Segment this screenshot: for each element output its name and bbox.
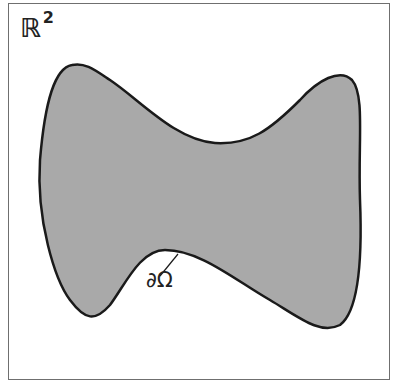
space-exponent: 2 <box>43 8 53 27</box>
space-label-r2: ℝ2 <box>20 12 53 43</box>
region-omega <box>39 64 360 328</box>
boundary-label: ∂Ω <box>146 268 173 292</box>
region-diagram <box>0 0 402 388</box>
space-symbol: ℝ <box>20 13 40 43</box>
